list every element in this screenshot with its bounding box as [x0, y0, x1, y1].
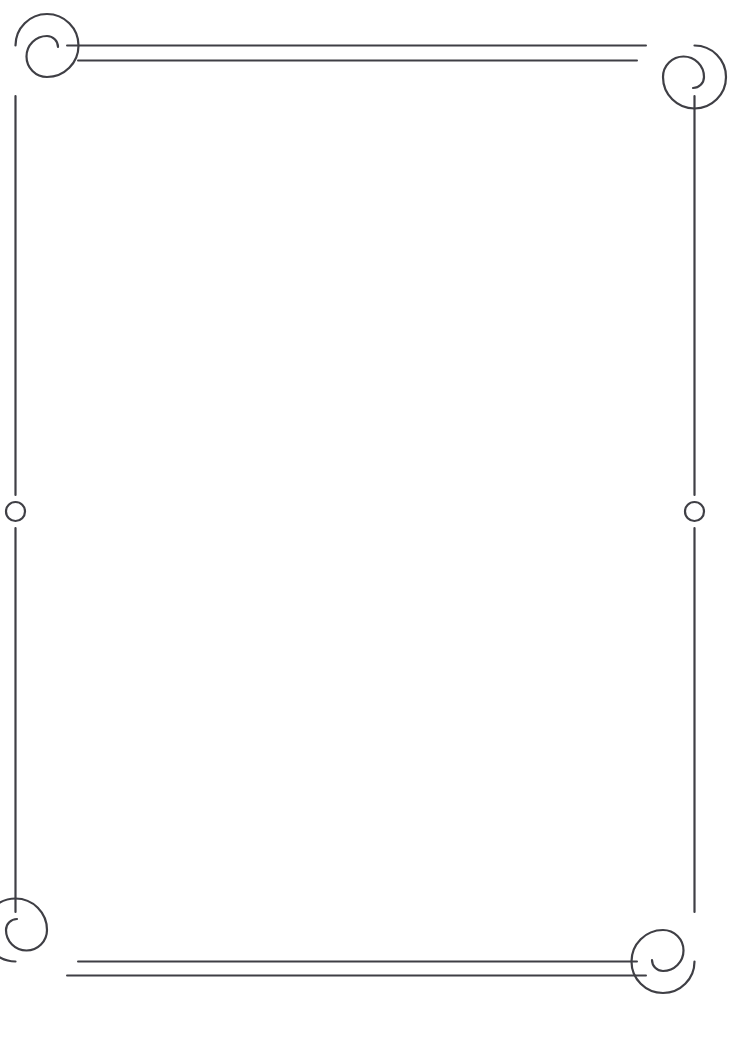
document-content-area	[30, 80, 680, 960]
double-rule-top	[67, 46, 646, 61]
medallion-left	[6, 502, 25, 521]
medallion-right	[685, 502, 704, 521]
page-root	[0, 0, 748, 1038]
double-rule-bottom	[67, 962, 646, 976]
